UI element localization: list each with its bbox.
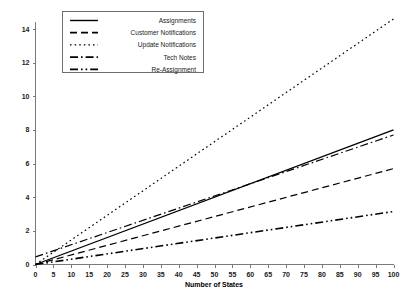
x-tick-label: 20: [103, 271, 111, 278]
y-tick-label: 10: [22, 93, 30, 100]
series-line-tech-notes: [36, 135, 394, 257]
x-tick-label: 60: [246, 271, 254, 278]
y-tick-label: 14: [22, 26, 30, 33]
legend-label: Update Notifications: [138, 41, 197, 49]
line-chart: 02468101214 0510152025303540455055606570…: [0, 0, 411, 300]
x-tick-label: 55: [229, 271, 237, 278]
y-tick-label: 8: [26, 126, 30, 133]
legend-label: Customer Notifications: [131, 29, 197, 36]
x-tick-label: 15: [85, 271, 93, 278]
x-tick-label: 70: [282, 271, 290, 278]
series-line-re-assignment: [36, 212, 394, 265]
x-tick-label: 45: [193, 271, 201, 278]
legend-label: Assignments: [159, 17, 197, 25]
x-tick-label: 50: [211, 271, 219, 278]
y-tick-label: 6: [26, 160, 30, 167]
series-line-customer-notifications: [36, 169, 394, 265]
x-tick-label: 40: [175, 271, 183, 278]
x-tick-label: 30: [139, 271, 147, 278]
x-tick-label: 25: [121, 271, 129, 278]
x-axis-ticks: 0510152025303540455055606570758085909510…: [34, 265, 400, 278]
x-tick-label: 100: [388, 271, 400, 278]
y-tick-label: 2: [26, 227, 30, 234]
x-tick-label: 85: [336, 271, 344, 278]
x-tick-label: 80: [318, 271, 326, 278]
y-tick-label: 12: [22, 59, 30, 66]
x-tick-label: 65: [264, 271, 272, 278]
x-tick-label: 35: [157, 271, 165, 278]
x-tick-label: 10: [67, 271, 75, 278]
x-axis-title: Number of States: [185, 281, 243, 288]
y-tick-label: 4: [26, 194, 30, 201]
x-tick-label: 75: [300, 271, 308, 278]
x-tick-label: 5: [51, 271, 55, 278]
x-tick-label: 0: [34, 271, 38, 278]
y-tick-label: 0: [26, 261, 30, 268]
legend: AssignmentsCustomer NotificationsUpdate …: [63, 12, 204, 74]
legend-label: Re-Assignment: [152, 66, 197, 74]
x-tick-label: 90: [354, 271, 362, 278]
chart-canvas: 02468101214 0510152025303540455055606570…: [0, 0, 411, 300]
y-axis-ticks: 02468101214: [22, 26, 36, 269]
x-tick-label: 95: [372, 271, 380, 278]
legend-label: Tech Notes: [163, 54, 196, 61]
series-line-assignments: [36, 130, 394, 265]
